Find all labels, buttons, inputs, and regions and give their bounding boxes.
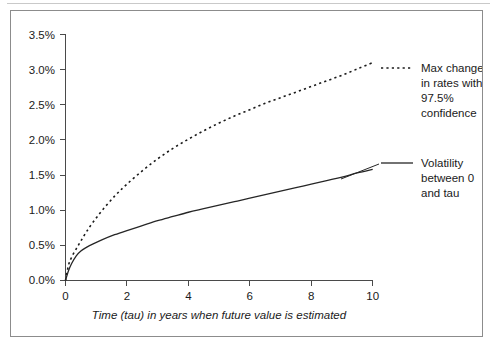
y-tick-label: 0.5% (29, 239, 55, 251)
y-tick-label: 2.0% (29, 134, 55, 146)
x-tick-label: 10 (366, 290, 379, 302)
series-line-volatility (66, 169, 373, 280)
x-tick-label: 6 (247, 290, 253, 302)
y-tick-label: 1.0% (29, 204, 55, 216)
y-tick-label: 3.5% (29, 29, 55, 41)
y-tick-labels: 3.5% 3.0% 2.5% 2.0% 1.5% 1.0% 0.5% 0.0% (29, 29, 55, 287)
chart-frame: 3.5% 3.0% 2.5% 2.0% 1.5% 1.0% 0.5% 0.0% (10, 10, 483, 337)
legend-label-line: Max change (421, 62, 482, 74)
x-tick-label: 8 (308, 290, 314, 302)
top-divider-rule (7, 3, 490, 4)
legend-label-line: confidence (421, 107, 477, 119)
y-tick-label: 1.5% (29, 169, 55, 181)
legend-item-max-change: Max change in rates with 97.5% confidenc… (381, 62, 482, 119)
figure-root: 3.5% 3.0% 2.5% 2.0% 1.5% 1.0% 0.5% 0.0% (0, 0, 495, 351)
legend-label-line: in rates with (421, 77, 482, 89)
legend-item-volatility: Volatility between 0 and tau (341, 157, 474, 199)
x-tick-marks (66, 281, 373, 287)
legend-label-line: and tau (421, 187, 459, 199)
y-tick-label: 0.0% (29, 274, 55, 286)
x-tick-label: 4 (185, 290, 192, 302)
line-chart-canvas: 3.5% 3.0% 2.5% 2.0% 1.5% 1.0% 0.5% 0.0% (11, 11, 482, 336)
y-tick-label: 2.5% (29, 99, 55, 111)
series-line-max-change (66, 63, 373, 281)
y-tick-marks (60, 35, 66, 281)
x-axis-title: Time (tau) in years when future value is… (92, 309, 347, 321)
x-tick-label: 0 (62, 290, 68, 302)
y-tick-label: 3.0% (29, 64, 55, 76)
x-tick-labels: 0 2 4 6 8 10 (62, 290, 379, 302)
legend-label-line: Volatility (421, 157, 463, 169)
x-tick-label: 2 (124, 290, 130, 302)
legend-label-line: between 0 (421, 172, 474, 184)
legend-label-line: 97.5% (421, 92, 454, 104)
legend-leader-line (341, 164, 379, 179)
